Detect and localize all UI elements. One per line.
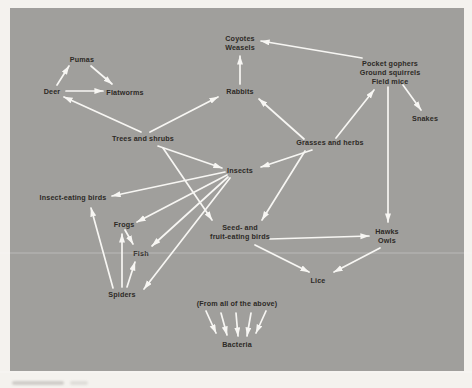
node-fish-label: Fish [133,249,148,258]
node-rabbits: Rabbits [226,87,253,96]
node-rabbits-label: Rabbits [226,87,253,96]
node-frogs-label: Frogs [114,220,135,229]
node-fish: Fish [133,249,148,258]
node-from-all-of-the-above-label: (From all of the above) [197,299,278,308]
cropped-caption-fragment [70,381,88,385]
node-flatworms: Flatworms [106,88,143,97]
node-from-all-of-the-above: (From all of the above) [197,299,278,308]
node-insects: Insects [227,166,253,175]
node-spiders-label: Spiders [108,290,135,299]
node-deer-label: Deer [44,87,61,96]
node-seed-fruit-eating-birds: Seed- andfruit-eating birds [210,223,270,241]
node-rodents-label: Pocket gophers [360,59,421,68]
node-deer: Deer [44,87,61,96]
cropped-caption-fragment [12,381,64,385]
node-grasses-and-herbs: Grasses and herbs [296,138,363,147]
node-insect-eating-birds: Insect-eating birds [40,193,107,202]
node-hawks-owls: HawksOwls [375,227,399,245]
node-seed-fruit-eating-birds-label: fruit-eating birds [210,232,270,241]
node-grasses-and-herbs-label: Grasses and herbs [296,138,363,147]
node-trees-and-shrubs-label: Trees and shrubs [112,134,174,143]
node-coyotes-weasels-label: Weasels [225,43,255,52]
node-hawks-owls-label: Owls [375,236,399,245]
node-snakes: Snakes [412,114,438,123]
node-rodents-label: Field mice [360,77,421,86]
node-rodents-label: Ground squirrels [360,68,421,77]
node-pumas: Pumas [70,55,94,64]
node-insect-eating-birds-label: Insect-eating birds [40,193,107,202]
node-seed-fruit-eating-birds-label: Seed- and [210,223,270,232]
node-spiders: Spiders [108,290,135,299]
node-lice-label: Lice [311,276,326,285]
node-frogs: Frogs [114,220,135,229]
node-flatworms-label: Flatworms [106,88,143,97]
node-coyotes-weasels-label: Coyotes [225,34,255,43]
node-layer: PumasDeerFlatwormsCoyotesWeaselsRabbitsP… [0,0,472,388]
node-hawks-owls-label: Hawks [375,227,399,236]
node-snakes-label: Snakes [412,114,438,123]
node-trees-and-shrubs: Trees and shrubs [112,134,174,143]
node-insects-label: Insects [227,166,253,175]
node-bacteria-label: Bacteria [222,340,252,349]
node-rodents: Pocket gophersGround squirrelsField mice [360,59,421,86]
scanned-page: { "colors": { "page_bg": "#f4f2ee", "pan… [0,0,472,388]
node-pumas-label: Pumas [70,55,94,64]
node-coyotes-weasels: CoyotesWeasels [225,34,255,52]
node-bacteria: Bacteria [222,340,252,349]
node-lice: Lice [311,276,326,285]
